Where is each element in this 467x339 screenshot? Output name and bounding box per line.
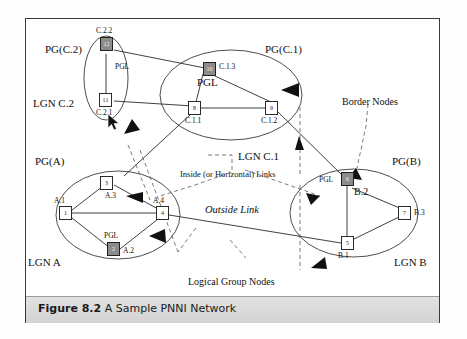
- node-label-a4: A.4: [153, 196, 164, 205]
- lgn-label-c1: LGN C.1: [238, 150, 279, 162]
- node-5[interactable]: 5: [341, 236, 354, 250]
- annotation-logical-group-nodes: Logical Group Nodes: [188, 276, 275, 287]
- node-label-a1: A.1: [54, 196, 65, 205]
- figure-page: 12 11 10 8 9 3 1 4 2 6 5 7 C.2.2 C.2.1 C…: [0, 0, 467, 339]
- node-4[interactable]: 4: [156, 206, 169, 220]
- pgl-label-b: PGL: [319, 175, 333, 184]
- pg-label-c1: PG(C.1): [265, 43, 302, 55]
- node-7[interactable]: 7: [398, 206, 411, 220]
- annotation-leaders: [128, 104, 368, 270]
- pg-label-a: PG(A): [35, 155, 64, 167]
- pgl-label-a: PGL: [104, 231, 118, 240]
- node-label-b1: B.1: [338, 251, 349, 260]
- figure-title: A Sample PNNI Network: [105, 302, 237, 315]
- node-1[interactable]: 1: [59, 206, 72, 220]
- lgn-label-c2: LGN C.2: [33, 97, 74, 109]
- annotation-border-nodes: Border Nodes: [342, 96, 398, 107]
- inside-links: [72, 54, 402, 249]
- pgl-label-c2: PGL: [115, 62, 129, 71]
- annotation-outside-link: Outside Link: [205, 204, 259, 215]
- node-12[interactable]: 12: [100, 37, 113, 51]
- node-10[interactable]: 10: [203, 62, 216, 76]
- node-label-b2: B.2: [354, 186, 368, 197]
- lgn-label-a: LGN A: [28, 256, 61, 268]
- pgl-label-c1: PGL: [197, 76, 218, 88]
- figure-number: Figure 8.2: [38, 302, 101, 315]
- node-label-a2: A.2: [123, 246, 134, 255]
- node-2[interactable]: 2: [107, 242, 120, 256]
- pg-label-c2: PG(C.2): [45, 43, 82, 55]
- node-3[interactable]: 3: [100, 176, 113, 190]
- pg-label-b: PG(B): [392, 155, 421, 167]
- figure-caption: Figure 8.2 A Sample PNNI Network: [38, 302, 236, 315]
- node-8[interactable]: 8: [188, 101, 201, 115]
- node-label-c13: C.1.3: [219, 62, 235, 71]
- node-label-c22: C.2.2: [96, 26, 112, 35]
- node-9[interactable]: 9: [265, 101, 278, 115]
- lgn-label-b: LGN B: [394, 256, 427, 268]
- annotation-inside-links: Inside (or Horizontal) Links: [180, 169, 276, 179]
- mouse-cursor: [107, 113, 121, 131]
- node-label-b3: B.3: [414, 208, 425, 217]
- node-11[interactable]: 11: [99, 93, 112, 107]
- node-label-a3: A.3: [105, 191, 116, 200]
- node-label-c11: C.1.1: [185, 116, 201, 125]
- node-label-c12: C.1.2: [261, 116, 277, 125]
- node-6[interactable]: 6: [341, 172, 354, 186]
